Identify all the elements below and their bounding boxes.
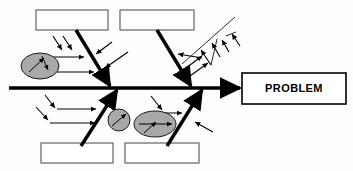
sub-cause-arrow — [36, 107, 48, 120]
bottom-right-category-box[interactable] — [125, 143, 199, 163]
sub-cause-arrow — [45, 95, 55, 108]
sub-cause-line — [211, 39, 217, 65]
fishbone-diagram-svg: PROBLEM — [0, 0, 353, 171]
bottom-left-category-box[interactable] — [41, 143, 113, 163]
sub-cause-arrow — [96, 42, 112, 54]
sub-cause-line — [226, 32, 236, 36]
sub-cause-arrow — [201, 50, 211, 65]
sub-cause-arrow — [105, 52, 128, 68]
fishbone-diagram-canvas: PROBLEM — [0, 0, 353, 171]
sub-cause-arrow — [151, 96, 162, 110]
problem-label: PROBLEM — [265, 82, 323, 94]
sub-cause-arrow — [53, 36, 62, 50]
top-right-category-box[interactable] — [120, 10, 194, 30]
sub-cause-arrow — [63, 36, 72, 50]
rib-top-left — [76, 30, 110, 86]
sub-cause-arrow — [195, 122, 213, 132]
cause-blob-left[interactable] — [21, 53, 59, 79]
sub-cause-arrow — [190, 63, 208, 76]
sub-cause-arrow — [222, 40, 229, 52]
top-left-category-box[interactable] — [36, 10, 108, 30]
rib-top-right — [157, 30, 191, 86]
sub-cause-arrow — [232, 34, 240, 46]
